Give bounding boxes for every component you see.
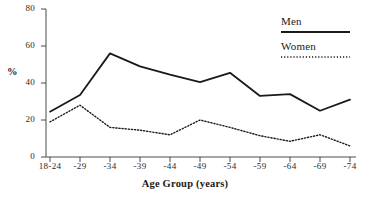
x-tick-label: -64: [273, 161, 307, 171]
x-tick-label: -44: [153, 161, 187, 171]
y-tick-label: 0: [13, 151, 35, 161]
series-line-men: [50, 53, 350, 111]
x-tick-label: -59: [243, 161, 277, 171]
x-tick-label: -39: [123, 161, 157, 171]
series-line-women: [50, 105, 350, 146]
x-axis-title: Age Group (years): [0, 178, 370, 189]
x-tick-label: -34: [93, 161, 127, 171]
x-tick-label: -74: [333, 161, 367, 171]
x-tick-label: 18-24: [33, 161, 67, 171]
y-tick-label: 20: [13, 114, 35, 124]
x-tick-label: -49: [183, 161, 217, 171]
legend-label-men: Men: [281, 15, 302, 27]
y-tick-label: 60: [13, 40, 35, 50]
y-axis-title: %: [7, 66, 18, 77]
legend-label-women: Women: [281, 40, 316, 52]
y-tick-label: 40: [13, 77, 35, 87]
x-tick-label: -29: [63, 161, 97, 171]
x-tick-label: -69: [303, 161, 337, 171]
x-tick-label: -54: [213, 161, 247, 171]
y-axis-ticks: [41, 9, 46, 157]
y-tick-label: 80: [13, 3, 35, 13]
chart-container: 020406080 18-24-29-34-39-44-49-54-59-64-…: [0, 0, 370, 200]
